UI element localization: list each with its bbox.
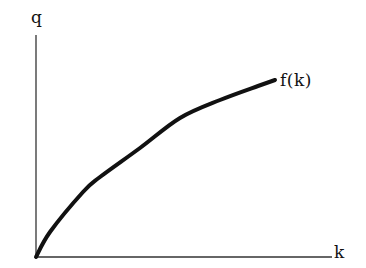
curve-label: f(k) xyxy=(280,72,312,89)
f-of-k-curve xyxy=(36,80,275,257)
production-function-chart xyxy=(0,0,366,268)
y-axis-label: q xyxy=(31,9,42,26)
x-axis-label: k xyxy=(334,244,344,261)
